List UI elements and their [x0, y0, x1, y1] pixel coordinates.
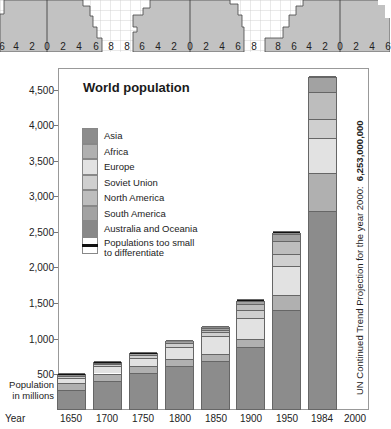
pyr-tick: 4 [219, 41, 225, 52]
y-tick-label: 3,000 [0, 191, 54, 202]
bar-1800 [165, 341, 194, 410]
bar-segment [273, 266, 300, 294]
pyr-tick: 8 [124, 41, 130, 52]
pyr-tick: 4 [76, 41, 82, 52]
legend-label-line1: Populations too small [104, 238, 194, 248]
bar-segment [58, 390, 85, 409]
bar-segment [309, 76, 336, 78]
y-tick-label: 500 [0, 369, 54, 380]
x-tick-label: 1850 [205, 413, 227, 424]
bar-segment [273, 234, 300, 242]
bar-1900 [236, 301, 265, 410]
legend-label: Europe [104, 161, 135, 172]
bar-segment [237, 301, 264, 304]
x-tick-label: 1650 [60, 413, 82, 424]
legend-label: Africa [104, 146, 128, 157]
pyr-tick: 6 [235, 41, 241, 52]
pyr-tick: 4 [155, 41, 161, 52]
bar-segment [130, 355, 157, 358]
bar-segment [273, 254, 300, 267]
pyr-tick: 2 [353, 41, 359, 52]
legend-swatch [82, 175, 98, 191]
pyr-tick: 4 [306, 41, 312, 52]
x-tick-label: 1700 [96, 413, 118, 424]
legend-label: Australia and Oceania [104, 223, 197, 234]
x-tick-label: 1984 [311, 413, 333, 424]
y-tick-mark [54, 161, 58, 162]
bar-1650 [57, 374, 86, 410]
bar-segment [237, 310, 264, 319]
bar-segment [202, 332, 229, 336]
pyr-tick: 8 [108, 41, 114, 52]
bar-segment [309, 173, 336, 211]
y-tick-label: 3,500 [0, 156, 54, 167]
bar-segment [94, 366, 121, 373]
pyr-tick: 6 [93, 41, 99, 52]
bar-1950 [272, 233, 301, 410]
x-axis-title: Year [5, 413, 25, 424]
pyr-tick: 6 [139, 41, 145, 52]
bar-segment [58, 373, 85, 376]
pyr-tick: 2 [322, 41, 328, 52]
pyr-tick: 2 [203, 41, 209, 52]
bar-segment [94, 364, 121, 366]
bar-segment [130, 366, 157, 373]
bar-segment [202, 328, 229, 330]
legend-label: Populations too small to differentiate [104, 238, 194, 258]
legend-swatch [82, 221, 98, 237]
pyr-tick: 6 [0, 41, 5, 52]
y-tick-mark [54, 267, 58, 268]
legend-swatch [82, 190, 98, 206]
bar-segment [237, 299, 264, 301]
projection-value: 6,253,000,000 [354, 120, 365, 181]
bar-segment [202, 330, 229, 332]
bar-segment [94, 374, 121, 381]
x-tick-label: 2000 [344, 413, 366, 424]
legend-label-line2: to differentiate [104, 248, 194, 258]
bar-segment [237, 318, 264, 339]
bar-1750 [129, 353, 158, 410]
bar-segment [273, 310, 300, 409]
y-tick-mark [54, 339, 58, 340]
bar-segment [94, 381, 121, 409]
legend-label: Asia [104, 130, 122, 141]
y-axis-title-line2: in millions [2, 390, 54, 401]
bar-segment [309, 92, 336, 119]
bar-segment [166, 366, 193, 409]
bar-segment [166, 343, 193, 347]
bar-segment [130, 373, 157, 409]
pyramid-tick-labels: 6 4 2 0 2 4 6 8 8 6 4 2 0 2 4 6 8 8 6 4 … [0, 41, 390, 55]
pyr-tick: 2 [29, 41, 35, 52]
pyr-tick: 8 [251, 41, 257, 52]
pyr-tick: 4 [13, 41, 19, 52]
y-tick-mark [54, 125, 58, 126]
projection-annotation: UN Continued Trend Projection for the ye… [354, 120, 365, 395]
pyr-tick: 4 [369, 41, 375, 52]
y-axis-title-line1: Population [2, 379, 54, 390]
y-tick-mark [54, 303, 58, 304]
bar-segment [166, 347, 193, 359]
pyr-tick: 2 [60, 41, 66, 52]
bar-1984 [308, 77, 337, 410]
pyr-tick: 0 [337, 41, 343, 52]
x-tick-label: 1800 [169, 413, 191, 424]
bar-segment [166, 340, 193, 342]
y-tick-label: 4,500 [0, 85, 54, 96]
bar-segment [166, 359, 193, 366]
bar-segment [273, 231, 300, 233]
bar-segment [202, 326, 229, 328]
bar-segment [309, 77, 336, 91]
pyr-tick: 0 [44, 41, 50, 52]
projection-text: UN Continued Trend Projection for the ye… [354, 186, 365, 395]
bar-segment [130, 358, 157, 367]
bar-segment [309, 211, 336, 409]
bar-segment [58, 378, 85, 382]
bar-segment [58, 383, 85, 390]
bar-segment [237, 304, 264, 310]
y-tick-label: 1,500 [0, 298, 54, 309]
x-tick-label: 1750 [132, 413, 154, 424]
x-tick-label: 1950 [276, 413, 298, 424]
y-tick-mark [54, 232, 58, 233]
bar-segment [273, 295, 300, 311]
bar-segment [202, 336, 229, 354]
